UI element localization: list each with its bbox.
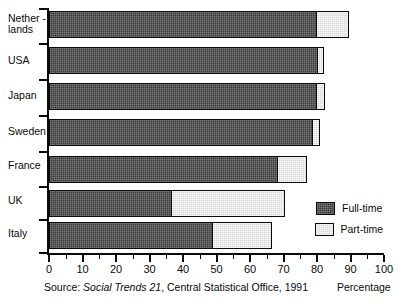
category-tick <box>39 79 48 81</box>
legend-item-full-time: Full-time <box>316 200 383 216</box>
value-tick-label: 10 <box>68 263 98 275</box>
value-tick-minor <box>267 255 268 259</box>
bar-segment-full-time <box>49 119 314 146</box>
value-tick-major <box>283 255 285 262</box>
bar-segment-part-time <box>316 83 326 110</box>
value-tick-minor <box>334 255 335 259</box>
value-tick-minor <box>99 255 100 259</box>
value-tick-label: 80 <box>302 263 332 275</box>
legend-swatch-full-time-icon <box>316 202 335 215</box>
category-label: Japan <box>8 90 37 101</box>
category-label: Italy <box>8 228 27 239</box>
value-tick-minor <box>367 255 368 259</box>
bar-segment-full-time <box>49 190 173 217</box>
value-tick-label: 60 <box>235 263 265 275</box>
value-tick-major <box>350 255 352 262</box>
source-prefix: Source: <box>44 281 83 293</box>
bar-row <box>49 119 320 146</box>
category-tick <box>39 186 48 188</box>
value-tick-minor <box>233 255 234 259</box>
value-tick-major <box>216 255 218 262</box>
source-publication-title: Social Trends 21 <box>83 281 161 293</box>
category-label: UK <box>8 195 23 206</box>
bar-segment-part-time <box>171 190 285 217</box>
legend-label-part-time: Part-time <box>341 223 384 235</box>
bar-row <box>49 222 272 249</box>
bar-segment-full-time <box>49 222 213 249</box>
bar-segment-part-time <box>212 222 272 249</box>
value-tick-label: 50 <box>202 263 232 275</box>
category-label: USA <box>8 55 30 66</box>
value-tick-major <box>249 255 251 262</box>
value-tick-major <box>182 255 184 262</box>
value-tick-minor <box>300 255 301 259</box>
value-tick-label: 20 <box>101 263 131 275</box>
bar-segment-part-time <box>316 11 349 38</box>
value-tick-label: 70 <box>269 263 299 275</box>
value-tick-minor <box>66 255 67 259</box>
value-tick-major <box>149 255 151 262</box>
bar-segment-full-time <box>49 11 317 38</box>
value-tick-major <box>383 255 385 262</box>
category-label: France <box>8 160 41 171</box>
value-tick-minor <box>133 255 134 259</box>
source-note: Source: Social Trends 21, Central Statis… <box>44 281 308 294</box>
category-tick <box>39 219 48 221</box>
x-axis-title: Percentage <box>337 281 391 294</box>
value-tick-major <box>82 255 84 262</box>
bar-row <box>49 47 324 74</box>
bar-segment-full-time <box>49 47 319 74</box>
value-tick-label: 90 <box>336 263 366 275</box>
chart-legend: Full-time Part-time <box>316 200 383 242</box>
bar-segment-full-time <box>49 156 278 183</box>
source-suffix: , Central Statistical Office, 1991 <box>161 281 308 293</box>
stacked-bar-chart: Nether - landsUSAJapanSwedenFranceUKItal… <box>0 0 408 305</box>
value-tick-label: 100 <box>369 263 399 275</box>
value-tick-major <box>316 255 318 262</box>
value-tick-minor <box>166 255 167 259</box>
category-label: Sweden <box>8 126 46 137</box>
bar-segment-full-time <box>49 83 317 110</box>
value-tick-label: 0 <box>34 263 64 275</box>
bar-segment-part-time <box>317 47 324 74</box>
bar-row <box>49 83 325 110</box>
bar-row <box>49 156 307 183</box>
value-tick-major <box>115 255 117 262</box>
value-tick-major <box>48 255 50 262</box>
bar-segment-part-time <box>312 119 320 146</box>
bar-row <box>49 11 349 38</box>
category-label: Nether - lands <box>8 13 46 35</box>
category-tick <box>39 151 48 153</box>
bar-segment-part-time <box>277 156 307 183</box>
legend-label-full-time: Full-time <box>342 202 382 214</box>
value-tick-label: 40 <box>168 263 198 275</box>
category-tick <box>39 8 48 10</box>
legend-swatch-part-time-icon <box>315 223 334 236</box>
category-tick <box>39 252 48 254</box>
category-tick <box>39 115 48 117</box>
legend-item-part-time: Part-time <box>316 221 383 237</box>
value-tick-label: 30 <box>135 263 165 275</box>
value-tick-minor <box>200 255 201 259</box>
bar-row <box>49 190 285 217</box>
category-tick <box>39 43 48 45</box>
